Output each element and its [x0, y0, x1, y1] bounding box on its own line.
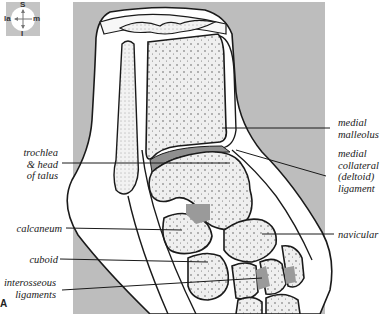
- label-line: of talus: [4, 170, 58, 182]
- label-line: calcaneum: [4, 223, 62, 235]
- tibia: [146, 34, 226, 159]
- label-medial-collateral-deltoid-ligament: medial collateral (deltoid) ligament: [338, 148, 380, 194]
- label-line: & head: [4, 159, 58, 171]
- label-line: navicular: [338, 229, 380, 241]
- label-line: medial: [338, 148, 380, 160]
- label-interosseous-ligaments: interosseous ligaments: [0, 277, 56, 300]
- label-line: ligaments: [0, 289, 56, 301]
- label-line: medial: [338, 117, 380, 129]
- label-line: cuboid: [4, 254, 58, 266]
- label-navicular: navicular: [338, 229, 380, 241]
- label-line: interosseous: [0, 277, 56, 289]
- cuboid: [188, 253, 228, 300]
- label-cuboid: cuboid: [4, 254, 58, 266]
- figure-mark: A: [0, 298, 7, 309]
- label-line: ligament: [338, 183, 380, 195]
- label-line: collateral: [338, 160, 380, 172]
- label-medial-malleolus: medial malleolus: [338, 117, 380, 140]
- label-trochlea-head-of-talus: trochlea & head of talus: [4, 147, 58, 182]
- label-line: trochlea: [4, 147, 58, 159]
- label-calcaneum: calcaneum: [4, 223, 62, 235]
- label-line: malleolus: [338, 129, 380, 141]
- label-line: (deltoid): [338, 171, 380, 183]
